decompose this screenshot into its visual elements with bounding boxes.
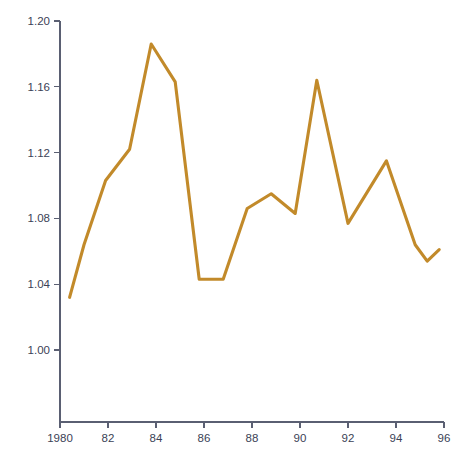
x-tick-label: 86 [198,432,211,444]
y-tick-label: 1.00 [28,344,50,356]
x-tick-label: 84 [150,432,163,444]
x-tick-label: 92 [342,432,355,444]
y-tick-label: 1.12 [28,147,50,159]
y-tick-label: 1.08 [28,212,50,224]
x-axis: 19808284868890929496 [47,422,450,444]
y-tick-label: 1.20 [28,15,50,27]
x-tick-label: 94 [390,432,403,444]
x-tick-label: 90 [294,432,307,444]
x-tick-label: 82 [102,432,115,444]
y-tick-label: 1.16 [28,81,50,93]
x-tick-label: 96 [438,432,451,444]
data-series-group [70,44,440,297]
x-tick-label: 1980 [47,432,73,444]
line-chart: 1.201.161.121.081.041.00 198082848688909… [0,0,459,459]
chart-canvas: 1.201.161.121.081.041.00 198082848688909… [0,0,459,459]
series-line-series-1 [70,44,440,297]
x-tick-label: 88 [246,432,259,444]
y-tick-label: 1.04 [28,278,51,290]
y-axis: 1.201.161.121.081.041.00 [28,15,60,422]
